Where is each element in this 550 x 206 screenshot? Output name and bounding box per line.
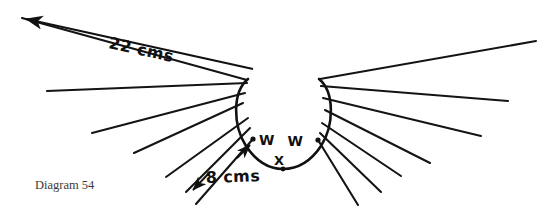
ray-right-2 [321,86,508,101]
ray-left-4 [134,103,243,153]
ray-right-5 [322,123,401,176]
label-8cms: 8 cms [205,166,260,187]
diagram-figure: W W X 22 cms 8 cms Diagram 54 [0,0,550,206]
ray-right-1 [320,41,536,79]
dimension-8cms-line-upper [237,145,250,158]
ray-right-3 [323,98,481,136]
figure-caption: Diagram 54 [35,178,95,192]
ray-fan-right [318,41,536,205]
point-w-left [250,136,255,141]
point-w-right [315,137,320,142]
label-w-right: W [288,133,303,149]
diagram-canvas: W W X 22 cms 8 cms Diagram 54 [0,0,550,206]
label-22cms: 22 cms [107,33,175,66]
label-x: X [274,153,284,168]
ray-left-2 [47,83,247,91]
label-w-left: W [259,132,274,148]
